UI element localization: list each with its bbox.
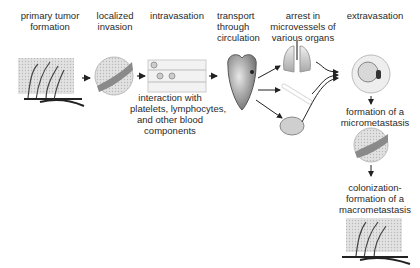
localized-invasion-illustration xyxy=(95,57,133,95)
extravasation-illustration xyxy=(352,55,390,93)
lungs-icon xyxy=(284,40,311,72)
heart-icon xyxy=(228,55,256,110)
micrometastasis-illustration xyxy=(354,128,388,162)
macrometastasis-illustration xyxy=(342,218,410,264)
bone-icon xyxy=(284,86,310,102)
diagram-canvas xyxy=(0,0,420,268)
brain-icon xyxy=(280,117,304,135)
intravasation-illustration xyxy=(148,60,206,92)
primary-tumor-illustration xyxy=(18,58,84,106)
